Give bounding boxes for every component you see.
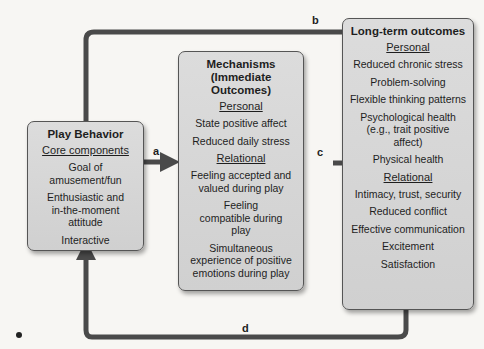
outcome-item: Problem-solving — [343, 76, 473, 89]
outcome-item: Effective communication — [343, 223, 473, 236]
mechanism-item: Simultaneous experience of positive emot… — [179, 242, 303, 280]
play-behavior-box: Play Behavior Core components Goal of am… — [27, 121, 144, 251]
play-item: Goal of amusement/fun — [28, 161, 143, 186]
arrow-label-d: d — [242, 322, 249, 334]
arrow-label-b: b — [312, 14, 319, 26]
long-term-personal-heading: Personal — [343, 41, 473, 54]
outcome-item: Physical health — [343, 153, 473, 166]
outcome-item: Satisfaction — [343, 258, 473, 271]
long-term-outcomes-box: Long-term outcomes Personal Reduced chro… — [342, 18, 474, 310]
mechanism-item: Reduced daily stress — [179, 135, 303, 148]
outcome-item: Excitement — [343, 240, 473, 253]
outcome-item: Reduced conflict — [343, 205, 473, 218]
core-components-heading: Core components — [28, 144, 143, 157]
outcome-item: Reduced chronic stress — [343, 58, 473, 71]
stray-mark — [16, 332, 22, 338]
outcome-item: Flexible thinking patterns — [343, 93, 473, 106]
mechanism-item: State positive affect — [179, 117, 303, 130]
long-term-relational-heading: Relational — [343, 171, 473, 184]
mechanisms-title: Mechanisms (Immediate Outcomes) — [179, 58, 303, 97]
outcome-item: Psychological health (e.g., trait positi… — [343, 111, 473, 149]
mechanisms-personal-heading: Personal — [179, 100, 303, 113]
play-item: Interactive — [28, 234, 143, 247]
long-term-title: Long-term outcomes — [343, 25, 473, 38]
mechanism-item: Feeling accepted and valued during play — [179, 169, 303, 194]
mechanisms-box: Mechanisms (Immediate Outcomes) Personal… — [178, 51, 304, 291]
mechanisms-relational-heading: Relational — [179, 152, 303, 165]
arrow-label-a: a — [153, 145, 159, 157]
arrow-label-c: c — [317, 146, 323, 158]
outcome-item: Intimacy, trust, security — [343, 188, 473, 201]
mechanism-item: Feeling compatible during play — [179, 199, 303, 237]
play-item: Enthusiastic and in-the-moment attitude — [28, 191, 143, 229]
play-behavior-title: Play Behavior — [28, 128, 143, 141]
